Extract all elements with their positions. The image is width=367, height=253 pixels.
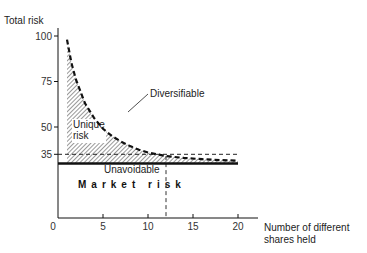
- risk-diversification-chart: 10075503505101520 Total risk Number of d…: [0, 0, 367, 253]
- y-axis-label: Total risk: [4, 15, 44, 26]
- x-tick-label: 15: [187, 221, 199, 232]
- x-tick-label: 0: [50, 221, 56, 232]
- unique-risk-hatched-area: [67, 40, 238, 164]
- annotation-risk: risk: [73, 130, 90, 141]
- annotation-unavoidable: Unavoidable: [104, 164, 160, 175]
- annotation-diversifiable: Diversifiable: [150, 88, 205, 99]
- unique-risk-area: [67, 40, 238, 164]
- annotation-market-risk: Market risk: [78, 179, 186, 190]
- x-axis-label-line-1: Number of different: [264, 222, 350, 233]
- y-tick-label: 75: [41, 76, 53, 87]
- x-axis-label-line-2: shares held: [264, 234, 316, 245]
- x-tick-label: 5: [100, 221, 106, 232]
- diversifiable-leader-line: [128, 94, 148, 112]
- y-tick-label: 35: [41, 149, 53, 160]
- x-tick-label: 10: [142, 221, 154, 232]
- x-tick-label: 20: [232, 221, 244, 232]
- y-tick-label: 50: [41, 122, 53, 133]
- y-tick-label: 100: [35, 31, 52, 42]
